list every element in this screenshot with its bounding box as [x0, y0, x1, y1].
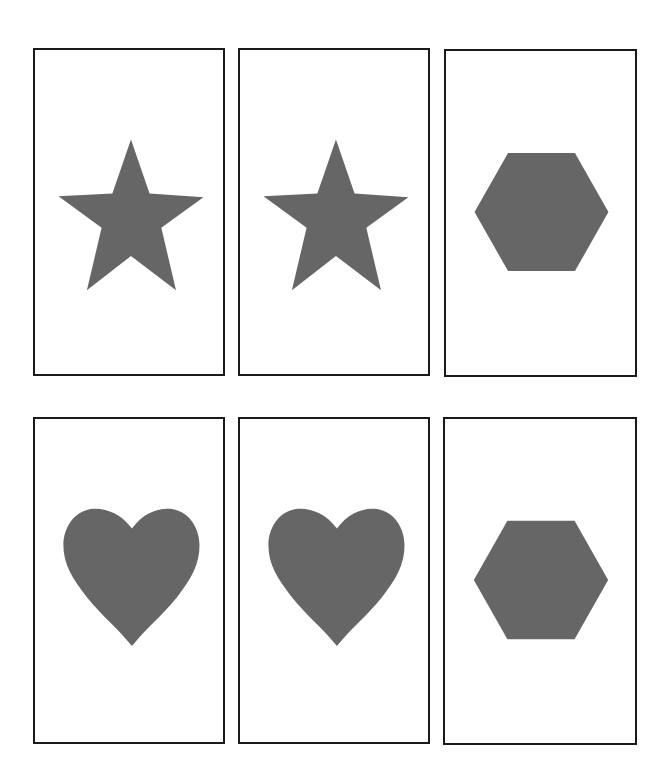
hexagon-icon [446, 51, 635, 375]
card-heart[interactable] [33, 417, 225, 744]
card-hexagon[interactable] [443, 417, 637, 745]
hexagon-icon [445, 419, 635, 743]
card-star[interactable] [33, 48, 225, 376]
card-hexagon[interactable] [444, 49, 637, 377]
card-heart[interactable] [238, 417, 430, 744]
star-icon [240, 50, 428, 374]
star-icon [35, 50, 223, 374]
heart-icon [240, 419, 428, 742]
card-star[interactable] [238, 48, 430, 376]
heart-icon [35, 419, 223, 742]
